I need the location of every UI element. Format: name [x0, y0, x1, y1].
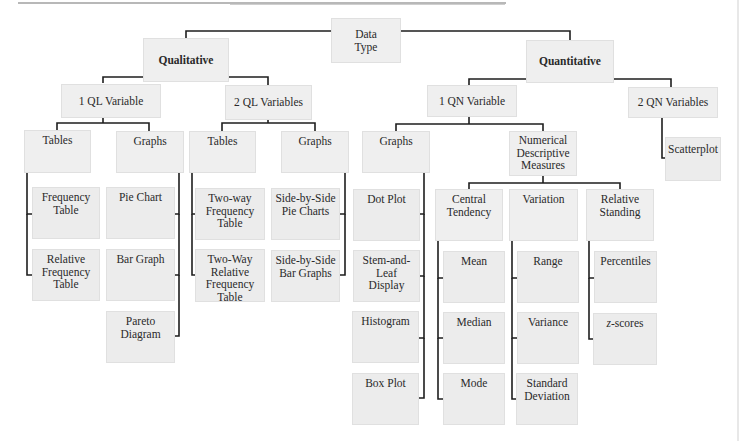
- node-relative-standing: Relative Standing: [586, 189, 654, 241]
- node-label: Frequency Table: [36, 191, 96, 216]
- node-label: Quantitative: [539, 55, 601, 68]
- node-median: Median: [443, 312, 505, 364]
- node-two-way-frequency-table: Two-way Frequency Table: [195, 188, 265, 240]
- node-label: Relative Frequency Table: [36, 253, 96, 291]
- node-dot-plot: Dot Plot: [353, 189, 420, 241]
- node-label: 1 QL Variable: [79, 95, 144, 108]
- node-relative-frequency-table: Relative Frequency Table: [32, 249, 100, 301]
- node-label: 2 QL Variables: [234, 96, 303, 109]
- node-label: Percentiles: [600, 255, 650, 267]
- node-label: Stem-and-Leaf Display: [362, 254, 412, 292]
- node-2-ql-variables: 2 QL Variables: [225, 85, 312, 120]
- node-label: Two-way Frequency Table: [202, 192, 258, 230]
- node-label: Variance: [528, 316, 568, 328]
- node-1-ql-variable: 1 QL Variable: [61, 84, 161, 118]
- node-label: Side-by-Side Bar Graphs: [274, 254, 338, 279]
- node-pie-chart: Pie Chart: [106, 187, 175, 239]
- node-box-plot: Box Plot: [352, 373, 419, 425]
- node-label: Numerical Descriptive Measures: [513, 134, 573, 172]
- node-label: z-scores: [606, 317, 643, 329]
- node-standard-deviation: Standard Deviation: [516, 373, 578, 425]
- node-label: Pie Chart: [119, 191, 162, 203]
- node-label: Standard Deviation: [519, 377, 575, 402]
- node-label: Tables: [43, 134, 73, 146]
- node-label: Graphs: [298, 135, 331, 147]
- node-label: 1 QN Variable: [439, 95, 505, 108]
- node-side-by-side-bar-graphs: Side-by-Side Bar Graphs: [271, 250, 340, 302]
- node-central-tendency: Central Tendency: [435, 189, 503, 241]
- node-1ql-graphs: Graphs: [116, 131, 184, 173]
- node-label: Histogram: [361, 315, 410, 327]
- node-1ql-tables: Tables: [24, 130, 91, 173]
- node-label: Scatterplot: [668, 143, 718, 155]
- node-label: Mode: [461, 377, 488, 389]
- node-label: Central Tendency: [444, 193, 494, 218]
- node-label: Two-Way Relative Frequency Table: [202, 253, 258, 303]
- node-label: Median: [456, 316, 491, 328]
- node-percentiles: Percentiles: [594, 251, 657, 303]
- node-label: Side-by-Side Pie Charts: [274, 192, 338, 217]
- node-variation: Variation: [509, 189, 578, 241]
- node-pareto-diagram: Pareto Diagram: [106, 311, 175, 363]
- node-histogram: Histogram: [352, 311, 419, 363]
- node-range: Range: [517, 251, 579, 303]
- node-mode: Mode: [443, 373, 505, 425]
- node-label: Relative Standing: [595, 193, 645, 218]
- node-label: Data Type: [346, 28, 386, 53]
- node-2ql-graphs: Graphs: [281, 131, 349, 173]
- node-quantitative: Quantitative: [526, 40, 614, 83]
- node-z-scores: z-scores: [593, 313, 657, 365]
- node-label: Pareto Diagram: [113, 315, 168, 340]
- node-label: Graphs: [379, 135, 412, 147]
- node-label: Graphs: [133, 135, 166, 147]
- node-side-by-side-pie-charts: Side-by-Side Pie Charts: [271, 188, 340, 240]
- node-2-qn-variables: 2 QN Variables: [628, 87, 718, 118]
- node-label: 2 QN Variables: [638, 96, 709, 109]
- node-label: Bar Graph: [116, 253, 164, 265]
- node-1-qn-variable: 1 QN Variable: [427, 85, 517, 117]
- node-stem-and-leaf-display: Stem-and-Leaf Display: [353, 250, 420, 302]
- node-label: Box Plot: [365, 377, 406, 389]
- node-bar-graph: Bar Graph: [106, 249, 175, 301]
- node-numerical-descriptive-measures: Numerical Descriptive Measures: [509, 131, 577, 176]
- node-2ql-tables: Tables: [189, 131, 256, 173]
- node-label: Qualitative: [159, 54, 214, 67]
- node-two-way-relative-frequency-table: Two-Way Relative Frequency Table: [195, 249, 265, 302]
- node-label: Dot Plot: [367, 193, 406, 205]
- node-qualitative: Qualitative: [143, 38, 229, 82]
- node-frequency-table: Frequency Table: [32, 187, 100, 239]
- node-label: Mean: [461, 255, 487, 267]
- node-label: Variation: [522, 193, 564, 205]
- node-variance: Variance: [517, 312, 579, 364]
- node-mean: Mean: [443, 251, 505, 303]
- node-label: Tables: [208, 135, 238, 147]
- node-data-type: Data Type: [331, 18, 401, 63]
- node-label: Range: [533, 255, 562, 267]
- node-scatterplot: Scatterplot: [665, 137, 721, 181]
- node-1qn-graphs: Graphs: [362, 131, 430, 173]
